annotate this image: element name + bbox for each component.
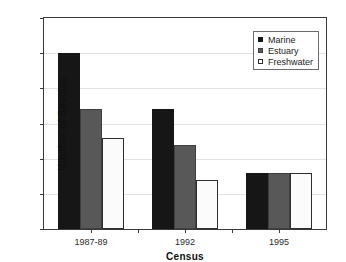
open-white-square-icon: [258, 59, 263, 64]
bar-estuary-1987-89: [80, 109, 102, 229]
legend-label: Estuary: [268, 46, 299, 56]
y-tick-mark: [40, 18, 44, 19]
bar-freshwater-1995: [290, 173, 312, 229]
y-axis-title: Number of Species: [57, 77, 68, 171]
chart-legend: MarineEstuaryFreshwater: [253, 31, 319, 70]
filled-black-square-icon: [258, 37, 263, 42]
legend-label: Marine: [268, 35, 296, 45]
x-axis-title: Census: [44, 251, 326, 262]
y-tick-mark: [40, 159, 44, 160]
bar-marine-1992: [152, 109, 174, 229]
y-tick-mark: [40, 194, 44, 195]
x-tick-mark: [91, 229, 92, 233]
bar-chart-figure: 051015202530 1987-8919921995 Census Numb…: [0, 0, 346, 262]
bar-marine-1995: [246, 173, 268, 229]
filled-gray-square-icon: [258, 48, 263, 53]
x-minor-tick-mark: [232, 230, 233, 233]
y-tick-mark: [40, 88, 44, 89]
x-tick-label: 1995: [269, 237, 289, 247]
legend-label: Freshwater: [268, 57, 313, 67]
bar-estuary-1992: [174, 145, 196, 229]
y-tick-mark: [40, 124, 44, 125]
y-tick-mark: [40, 229, 44, 230]
plot-area: 051015202530 1987-8919921995 Census Numb…: [43, 17, 327, 230]
x-tick-mark: [279, 229, 280, 233]
x-tick-label: 1992: [175, 237, 195, 247]
legend-item-estuary: Estuary: [258, 45, 313, 56]
legend-item-marine: Marine: [258, 34, 313, 45]
x-tick-mark: [185, 229, 186, 233]
legend-item-freshwater: Freshwater: [258, 56, 313, 67]
bar-estuary-1995: [268, 173, 290, 229]
x-tick-label: 1987-89: [74, 237, 107, 247]
y-tick-mark: [40, 53, 44, 54]
bar-freshwater-1987-89: [102, 138, 124, 229]
gridline: [44, 88, 326, 89]
x-minor-tick-mark: [138, 230, 139, 233]
bar-freshwater-1992: [196, 180, 218, 229]
